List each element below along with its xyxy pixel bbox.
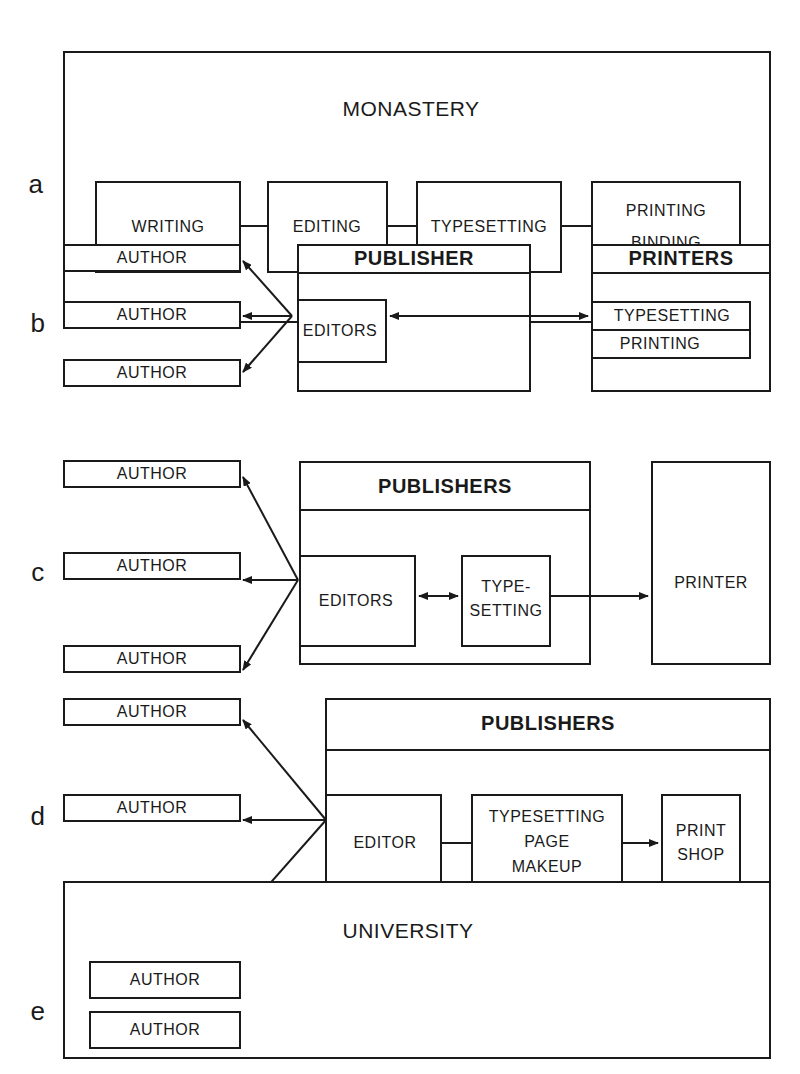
typesetting-label-1: TYPE- bbox=[481, 578, 531, 595]
typesetting-label: TYPESETTING bbox=[431, 218, 548, 235]
printers-title: PRINTERS bbox=[628, 247, 733, 269]
panel-c: c AUTHOR AUTHOR AUTHOR PUBLISHERS EDITOR… bbox=[31, 461, 770, 672]
panel-b: b AUTHOR AUTHOR AUTHOR PUBLISHER EDITORS… bbox=[31, 245, 770, 391]
university-title: UNIVERSITY bbox=[342, 919, 473, 942]
author-label: AUTHOR bbox=[130, 971, 201, 988]
monastery-title: MONASTERY bbox=[342, 97, 479, 120]
author-label: AUTHOR bbox=[117, 306, 188, 323]
editing-label: EDITING bbox=[293, 218, 361, 235]
panel-label-d: d bbox=[31, 801, 46, 831]
author-label: AUTHOR bbox=[117, 650, 188, 667]
print-shop-label-1: PRINT bbox=[676, 822, 727, 839]
print-shop-label-2: SHOP bbox=[677, 846, 724, 863]
printing-label: PRINTING bbox=[626, 202, 706, 219]
arrow-author1-editors bbox=[243, 477, 298, 580]
print-shop-box bbox=[662, 795, 740, 891]
printer-printing-label: PRINTING bbox=[620, 335, 700, 352]
panel-label-e: e bbox=[31, 996, 46, 1026]
printer-label: PRINTER bbox=[674, 574, 748, 591]
page-label: PAGE bbox=[524, 833, 569, 850]
typesetting-box bbox=[462, 556, 550, 646]
editors-label: EDITORS bbox=[319, 592, 393, 609]
author-label: AUTHOR bbox=[117, 557, 188, 574]
panel-e: e UNIVERSITY AUTHOR AUTHOR bbox=[31, 882, 770, 1058]
panel-label-c: c bbox=[31, 557, 45, 587]
typesetting-label: TYPESETTING bbox=[489, 808, 606, 825]
arrow-author1-editor bbox=[243, 720, 326, 820]
makeup-label: MAKEUP bbox=[512, 858, 583, 875]
writing-label: WRITING bbox=[132, 218, 205, 235]
editors-label: EDITORS bbox=[303, 322, 377, 339]
author-label: AUTHOR bbox=[117, 465, 188, 482]
typesetting-label-2: SETTING bbox=[470, 602, 543, 619]
publishers-title: PUBLISHERS bbox=[378, 475, 512, 497]
publishing-evolution-diagram: a MONASTERY WRITING EDITING TYPESETTING … bbox=[0, 0, 800, 1074]
author-label: AUTHOR bbox=[117, 249, 188, 266]
author-label: AUTHOR bbox=[117, 799, 188, 816]
publishers-title: PUBLISHERS bbox=[481, 712, 615, 734]
author-label: AUTHOR bbox=[130, 1021, 201, 1038]
printer-box bbox=[652, 462, 770, 664]
author-label: AUTHOR bbox=[117, 703, 188, 720]
editor-label: EDITOR bbox=[353, 834, 416, 851]
arrow-author3-editors bbox=[243, 580, 298, 670]
panel-label-a: a bbox=[29, 169, 44, 199]
author-label: AUTHOR bbox=[117, 364, 188, 381]
publisher-title: PUBLISHER bbox=[354, 247, 474, 269]
arrow-author3-editors bbox=[243, 316, 292, 372]
printer-typesetting-label: TYPESETTING bbox=[614, 307, 731, 324]
panel-label-b: b bbox=[31, 308, 46, 338]
